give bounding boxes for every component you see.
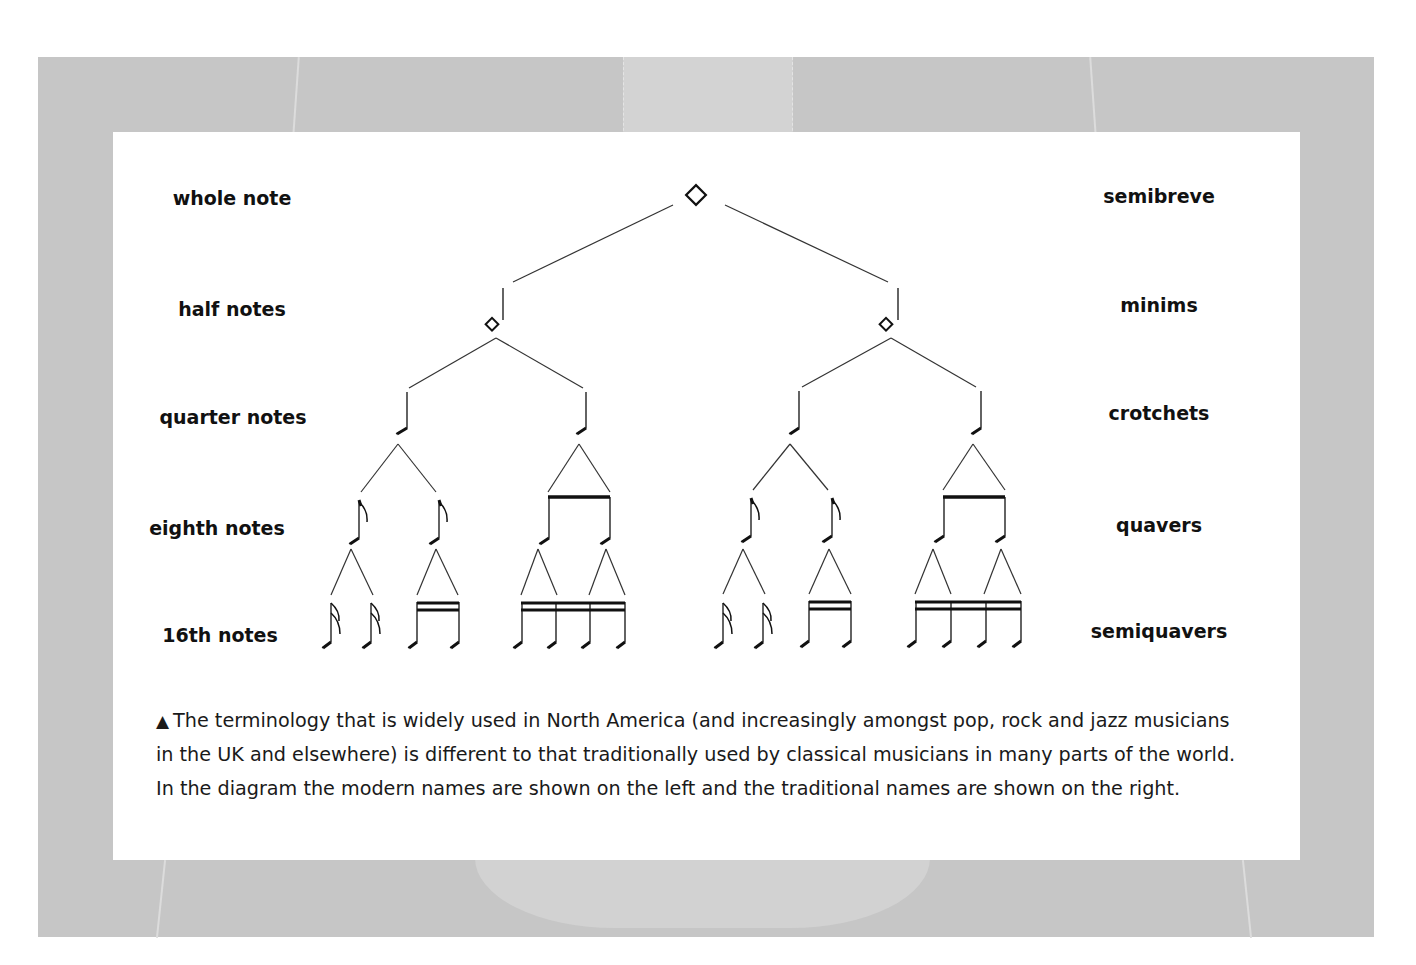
beamed-eighth-notes-icon [539,497,1005,544]
half-note-icon [486,288,898,331]
note-tree-diagram [113,132,1300,692]
caption-line-2: in the UK and elsewhere) is different to… [156,738,1276,772]
quarter-note-icon [396,391,981,434]
caption-line-3: In the diagram the modern names are show… [156,772,1276,806]
diagram-card: whole note half notes quarter notes eigh… [113,132,1300,860]
branch-lines [331,205,1021,595]
caption: ▲The terminology that is widely used in … [156,704,1276,806]
eighth-note-icon [349,498,840,544]
caption-line-1: ▲The terminology that is widely used in … [156,704,1276,738]
triangle-up-icon: ▲ [156,711,169,731]
beamed-sixteenth-pair-icon [408,601,851,648]
background-guitar-body [475,858,930,928]
whole-note-icon [686,185,706,205]
